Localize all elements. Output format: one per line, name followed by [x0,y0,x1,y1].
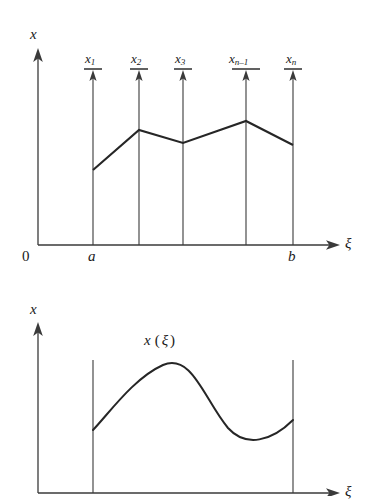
lower-bound-label-a: a [88,249,96,264]
curve-label-open-paren: ( [155,332,160,348]
curve-label-x-of-xi: x(ξ) [144,333,175,348]
bottom-panel-x-axis-arrow-icon [326,488,340,496]
piecewise-linear-trace [93,121,293,170]
bottom-panel-x-axis-label: ξ [345,484,351,499]
sample-label-xn: xn [286,52,296,65]
sample-line-xn-1 [232,69,260,245]
sample-line-x3 [174,69,192,245]
sample-line-x2 [130,69,148,245]
sample-line-x1 [84,69,102,245]
curve-label-close-paren: ) [170,332,175,348]
sample-label-sub-xn-1: n–1 [235,57,249,67]
sample-label-x2: x2 [131,52,141,65]
curve-label-base: x [144,332,151,348]
sample-label-base-x3: x [175,51,181,66]
sample-label-xn-1: xn–1 [229,52,248,65]
sample-label-base-xn-1: x [229,51,235,66]
sample-label-base-xn: x [286,51,292,66]
sample-line-xn [284,69,302,245]
top-panel-y-axis-label: x [30,27,37,42]
top-panel-origin-label: 0 [22,249,30,264]
sample-label-base-x1: x [85,51,91,66]
continuous-function-panel [33,322,340,496]
continuous-function-curve [93,363,293,440]
curve-label-argument: ξ [162,332,168,348]
step-approximation-panel [33,48,340,250]
top-panel-x-axis-label: ξ [345,236,351,251]
upper-bound-label-b: b [288,249,296,264]
sample-label-sub-x3: 3 [181,57,186,67]
sample-label-sub-x2: 2 [137,57,142,67]
sample-label-sub-x1: 1 [91,57,96,67]
sample-label-sub-xn: n [292,57,297,67]
sample-label-x3: x3 [175,52,185,65]
bottom-panel-y-axis-label: x [30,302,37,317]
sample-label-x1: x1 [85,52,95,65]
sample-label-base-x2: x [131,51,137,66]
